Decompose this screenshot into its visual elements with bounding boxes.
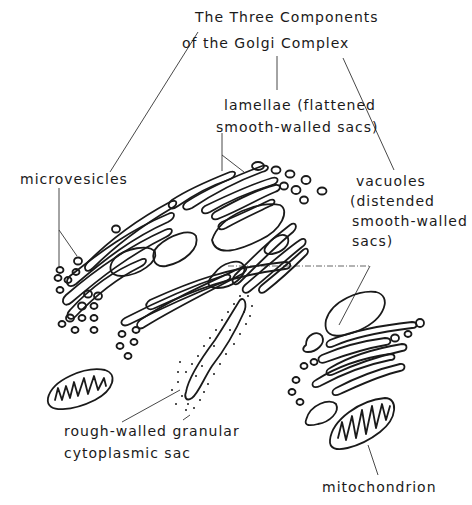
rough-sac-label-line2: cytoplasmic sac bbox=[64, 444, 191, 463]
vacuoles-label-line4: sacs) bbox=[352, 232, 393, 251]
vacuoles-main bbox=[110, 204, 288, 288]
vacuoles-label-line2: (distended bbox=[350, 192, 435, 211]
figure-title-line2: of the Golgi Complex bbox=[182, 34, 349, 53]
vacuoles-label-line3: smooth-walled bbox=[352, 212, 468, 231]
golgi-complex-figure: The Three Components of the Golgi Comple… bbox=[0, 0, 472, 505]
mitochondrion-left bbox=[48, 369, 113, 409]
microvesicles-label: microvesicles bbox=[20, 170, 128, 189]
figure-title-line1: The Three Components bbox=[195, 8, 379, 27]
lamellae-label-line2: smooth-walled sacs) bbox=[216, 118, 379, 137]
ribosome-dots bbox=[171, 295, 253, 411]
lamellae-label-line1: lamellae (flattened bbox=[224, 96, 376, 115]
mitochondrion-right bbox=[330, 398, 394, 449]
vacuoles-label-line1: vacuoles bbox=[356, 172, 426, 191]
right-golgi-stack bbox=[289, 292, 425, 425]
rough-sac-label-line1: rough-walled granular bbox=[64, 422, 240, 441]
mitochondrion-label: mitochondrion bbox=[322, 478, 437, 497]
lamellae-stack bbox=[63, 166, 308, 329]
rough-walled-sac bbox=[171, 295, 253, 411]
